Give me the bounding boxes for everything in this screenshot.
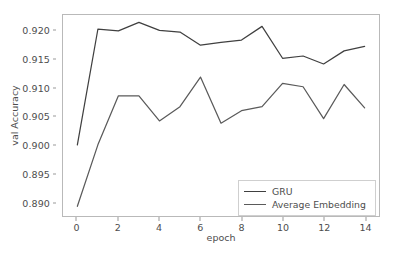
y-tick-label: 0.905 xyxy=(22,111,50,122)
legend-label: Average Embedding xyxy=(272,199,366,210)
y-tick-label: 0.900 xyxy=(22,140,50,151)
legend-line-swatch xyxy=(244,191,266,192)
x-tick-mark xyxy=(241,217,242,221)
y-tick-label: 0.895 xyxy=(22,168,50,179)
series-line xyxy=(77,22,364,144)
y-tick-mark xyxy=(53,173,57,174)
x-tick-mark xyxy=(159,217,160,221)
x-tick-mark xyxy=(76,217,77,221)
x-tick-mark xyxy=(117,217,118,221)
chart-legend: GRUAverage Embedding xyxy=(238,180,376,216)
y-tick-mark xyxy=(53,202,57,203)
y-tick-label: 0.920 xyxy=(22,25,50,36)
y-tick-label: 0.890 xyxy=(22,197,50,208)
x-axis-label: epoch xyxy=(62,232,380,243)
x-tick-mark xyxy=(324,217,325,221)
legend-item[interactable]: Average Embedding xyxy=(244,198,369,211)
y-tick-mark xyxy=(53,87,57,88)
y-tick-label: 0.915 xyxy=(22,53,50,64)
legend-item[interactable]: GRU xyxy=(244,185,369,198)
y-tick-mark xyxy=(53,30,57,31)
y-tick-mark xyxy=(53,145,57,146)
legend-label: GRU xyxy=(272,186,292,197)
chart-figure: val Accuracy 0.8900.8950.9000.9050.9100.… xyxy=(0,0,393,258)
y-tick-label: 0.910 xyxy=(22,82,50,93)
x-tick-mark xyxy=(365,217,366,221)
y-tick-mark xyxy=(53,58,57,59)
y-tick-mark xyxy=(53,116,57,117)
y-axis-ticks: 0.8900.8950.9000.9050.9100.9150.920 xyxy=(0,14,56,217)
x-tick-mark xyxy=(200,217,201,221)
x-tick-mark xyxy=(282,217,283,221)
legend-line-swatch xyxy=(244,204,266,205)
